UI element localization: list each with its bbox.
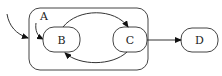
state-b[interactable]: B bbox=[43, 27, 80, 52]
state-b-label: B bbox=[57, 34, 65, 47]
initial-transition-to-a bbox=[7, 14, 28, 38]
state-a-label: A bbox=[39, 10, 49, 23]
state-c[interactable]: C bbox=[113, 27, 147, 52]
statechart-diagram: A B C D bbox=[0, 0, 222, 76]
state-d[interactable]: D bbox=[181, 28, 218, 52]
state-c-label: C bbox=[126, 34, 134, 47]
state-d-label: D bbox=[195, 34, 204, 47]
